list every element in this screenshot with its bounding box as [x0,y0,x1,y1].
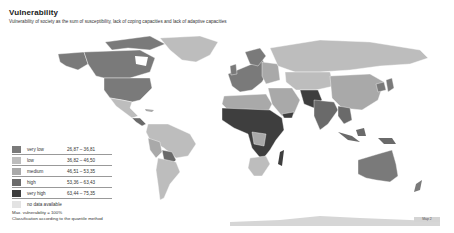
legend-row-very-low: very low 26,87 – 36,81 [12,144,112,155]
region-indonesia [338,132,360,142]
map-notes: Max. vulnerability = 100% Classification… [12,210,103,222]
legend-row-no-data: no data available [12,199,112,209]
swatch-low [12,157,21,164]
region-greenland [160,36,218,62]
legend-label: very high [27,191,59,196]
map-title: Vulnerability [9,8,58,17]
map-number-tag: Map 2 [414,217,440,222]
region-china [330,74,384,110]
region-australia [358,150,398,182]
swatch-very-high [12,190,21,197]
region-alaska [58,52,88,70]
legend-row-low: low 36,82 – 46,50 [12,155,112,166]
legend-range: 36,82 – 46,50 [67,158,95,163]
swatch-medium [12,168,21,175]
legend-label: high [27,180,59,185]
swatch-no-data [12,201,21,208]
region-central-america [132,118,146,126]
legend-range: 26,87 – 36,81 [67,147,95,152]
legend-label: no data available [27,202,62,207]
legend-row-medium: medium 46,51 – 53,35 [12,166,112,177]
region-arctic-islands [105,36,165,50]
swatch-very-low [12,146,21,153]
legend-range: 46,51 – 53,35 [67,169,95,174]
legend: very low 26,87 – 36,81 low 36,82 – 46,50… [12,144,112,209]
legend-label: low [27,158,59,163]
legend-label: very low [27,147,59,152]
region-antarctica [230,216,440,226]
region-southern-africa [248,156,270,176]
legend-row-very-high: very high 63,44 – 75,35 [12,188,112,199]
legend-range: 63,44 – 75,35 [67,191,95,196]
legend-label: medium [27,169,59,174]
legend-range: 53,36 – 63,43 [67,180,95,185]
region-india [314,100,338,130]
region-russia [270,40,428,72]
swatch-high [12,179,21,186]
legend-row-high: high 53,36 – 63,43 [12,177,112,188]
region-south-america-south [156,158,180,200]
note-classification: Classification according to the quantile… [12,216,103,222]
